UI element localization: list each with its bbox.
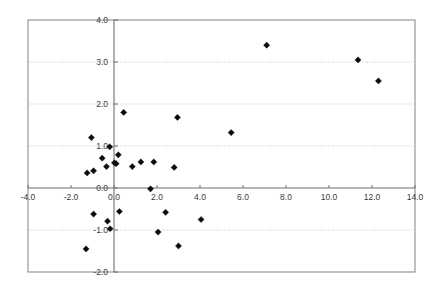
y-tick-label: 4.0	[96, 15, 108, 25]
scatter-chart: -4.0-2.00.02.04.06.08.010.012.014.0 -2.0…	[0, 0, 436, 289]
x-tick-label: -2.0	[64, 192, 79, 202]
chart-canvas: -4.0-2.00.02.04.06.08.010.012.014.0 -2.0…	[0, 0, 436, 289]
y-tick-label: 2.0	[96, 99, 108, 109]
x-tick-label: 8.0	[280, 192, 292, 202]
x-tick-label: 4.0	[194, 192, 206, 202]
y-tick-label: 0.0	[96, 183, 108, 193]
plot-background	[0, 0, 436, 289]
y-tick-label: 1.0	[96, 141, 108, 151]
x-tick-label: 12.0	[364, 192, 381, 202]
x-tick-label: -4.0	[21, 192, 36, 202]
y-tick-label: -1.0	[93, 225, 108, 235]
x-tick-label: 2.0	[151, 192, 163, 202]
y-tick-label: -2.0	[93, 267, 108, 277]
y-tick-label: 3.0	[96, 57, 108, 67]
x-tick-label: 10.0	[321, 192, 338, 202]
x-tick-label: 0.0	[108, 192, 120, 202]
x-tick-label: 14.0	[407, 192, 424, 202]
x-tick-label: 6.0	[237, 192, 249, 202]
